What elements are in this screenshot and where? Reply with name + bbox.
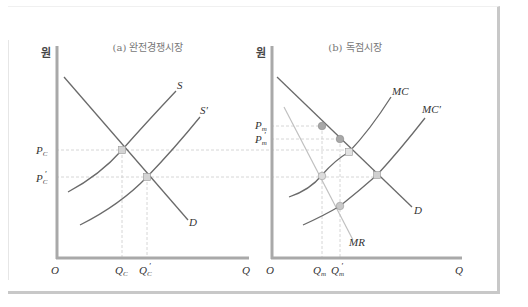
price-label-pm-prime: Pm′ <box>254 130 267 147</box>
supply-curve-shifted <box>80 117 200 225</box>
panel-title-a: (a) 완전경쟁시장 <box>113 41 184 53</box>
panel-perfect-competition: 원 (a) 완전경쟁시장 S S′ D PC PC′ O QC QC′ Q <box>35 41 377 278</box>
mr-mc-intersection <box>318 172 326 180</box>
origin-label-b: O <box>266 264 274 276</box>
demand-label-b: D <box>413 204 422 216</box>
quantity-label-qc: QC <box>115 264 128 278</box>
mr-mc-shifted-intersection <box>336 202 344 210</box>
mc-label: MC <box>391 85 409 97</box>
equilibrium-point-a1 <box>119 147 126 154</box>
price-label-pc: PC <box>35 144 48 158</box>
monopoly-price-point-shifted <box>336 135 344 143</box>
d-mc-intersection <box>346 149 353 156</box>
quantity-label-qc-prime: QC′ <box>139 261 152 278</box>
panel-monopoly: 원 (b) 독점시장 MC MC′ D MR Pm Pm′ O Qm Qm′ Q <box>254 42 463 278</box>
mr-label: MR <box>348 236 365 248</box>
equilibrium-point-a2 <box>144 174 151 181</box>
x-axis-label-b: Q <box>455 264 463 276</box>
quantity-label-qm: Qm <box>313 264 326 278</box>
price-label-pc-prime: PC′ <box>35 169 48 186</box>
supply-shifted-label: S′ <box>200 104 209 116</box>
supply-label: S <box>177 79 183 91</box>
mc-shifted-label: MC′ <box>421 103 442 115</box>
y-axis-label-a: 원 <box>41 46 51 60</box>
origin-label-a: O <box>51 264 59 276</box>
quantity-label-qm-prime: Qm′ <box>331 261 344 278</box>
monopoly-price-point <box>318 122 326 130</box>
y-axis-label-b: 원 <box>256 46 266 60</box>
panel-title-b: (b) 독점시장 <box>328 42 381 53</box>
economics-diagram: 원 (a) 완전경쟁시장 S S′ D PC PC′ O QC QC′ Q <box>0 0 528 307</box>
demand-label-a: D <box>188 216 197 228</box>
guide-lines-b <box>271 126 340 258</box>
d-mc-shifted-intersection <box>374 172 381 179</box>
x-axis-label-a: Q <box>242 264 250 276</box>
guide-lines-a <box>56 150 377 258</box>
